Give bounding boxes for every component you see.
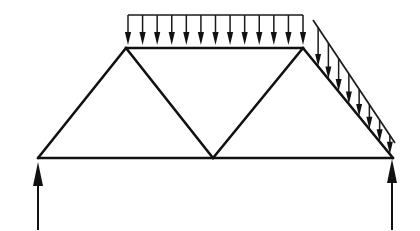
truss-diagram-canvas — [0, 0, 420, 231]
truss-diagram-figure — [0, 0, 420, 231]
